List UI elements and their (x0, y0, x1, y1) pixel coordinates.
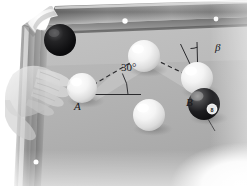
ball-white-top-highlight (132, 45, 144, 54)
ball-black-highlight (49, 29, 60, 37)
ball-cue-A-highlight (71, 78, 82, 86)
fade-corner-bottom-right (120, 110, 247, 186)
label-point-a: A (74, 101, 81, 112)
ball-white-B-highlight (185, 67, 197, 76)
ball-cue-A (67, 73, 97, 103)
label-point-b: B (186, 97, 193, 108)
ball-black-pocketed (44, 24, 76, 56)
label-angle-beta: β (215, 42, 220, 53)
label-angle-30deg: 30° (121, 62, 136, 73)
billiard-table-figure: 8 (0, 0, 247, 186)
billiard-scene-svg: 8 (0, 0, 247, 186)
sight-dot-top-1 (122, 18, 127, 23)
